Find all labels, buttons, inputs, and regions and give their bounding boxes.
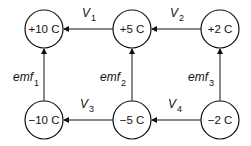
edge-emf1: emf1 xyxy=(13,49,44,101)
edge-label: emf3 xyxy=(188,70,214,88)
edge-emf2: emf2 xyxy=(100,49,132,101)
node-label: −5 C xyxy=(120,114,145,126)
edge-label: emf1 xyxy=(13,70,39,88)
edge-label: V4 xyxy=(168,97,182,114)
edge-label: emf2 xyxy=(100,70,126,88)
node-minus-5: −5 C xyxy=(113,101,151,139)
node-label: +10 C xyxy=(28,23,59,35)
node-minus-2: −2 C xyxy=(201,101,239,139)
node-plus-5: +5 C xyxy=(113,10,151,48)
edge-v4: V4 xyxy=(152,97,201,120)
edge-v2: V2 xyxy=(152,6,201,29)
edge-v3: V3 xyxy=(64,97,113,120)
node-label: +2 C xyxy=(208,23,233,35)
node-label: −2 C xyxy=(208,114,233,126)
node-plus-2: +2 C xyxy=(201,10,239,48)
charge-potential-diagram: +10 C +5 C +2 C −10 C −5 C −2 C V1 V2 V3… xyxy=(0,0,251,146)
node-minus-10: −10 C xyxy=(25,101,63,139)
edge-emf3: emf3 xyxy=(188,49,220,101)
node-label: −10 C xyxy=(28,114,59,126)
edge-label: V2 xyxy=(170,6,184,23)
edge-label: V1 xyxy=(82,6,96,23)
node-label: +5 C xyxy=(120,23,145,35)
node-plus-10: +10 C xyxy=(25,10,63,48)
edge-v1: V1 xyxy=(64,6,113,29)
edge-label: V3 xyxy=(80,97,94,114)
